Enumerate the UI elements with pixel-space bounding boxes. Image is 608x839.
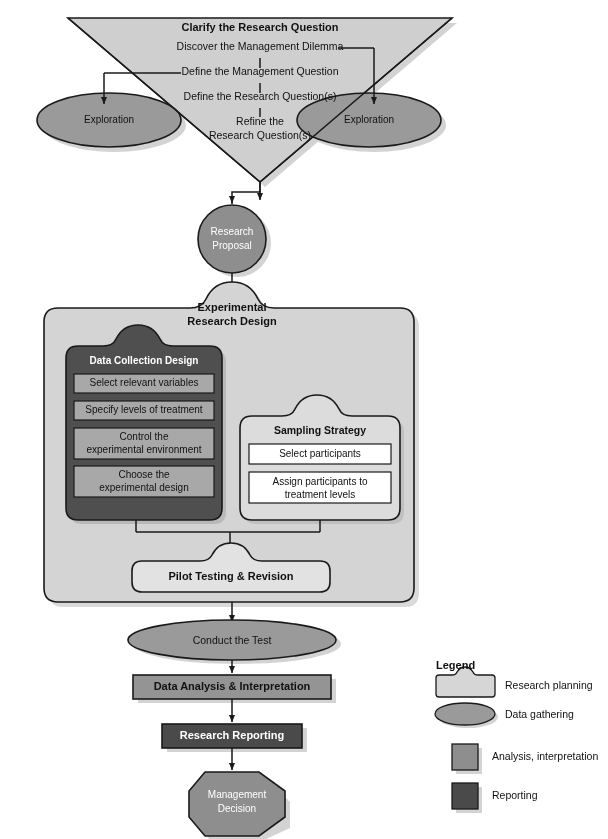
research-proposal-shape: [198, 205, 266, 273]
design-container-title-line1: Experimental: [157, 301, 307, 314]
legend-swatch-data-gathering: [435, 703, 495, 725]
legend-label-research-planning: Research planning: [505, 679, 608, 691]
dc-item-1: Select relevant variables: [74, 377, 214, 389]
sampling-item-1: Select participants: [249, 448, 391, 460]
sampling-item-2-line2: treatment levels: [249, 489, 391, 501]
legend-swatches: [435, 667, 498, 813]
dc-item-3-line2: experimental environment: [70, 444, 218, 456]
research-proposal-line1: Research: [182, 226, 282, 238]
funnel-heading: Clarify the Research Question: [140, 21, 380, 34]
exploration-left-label: Exploration: [59, 114, 159, 126]
data-collection-title: Data Collection Design: [68, 355, 220, 367]
dc-item-4-line1: Choose the: [74, 469, 214, 481]
conduct-test-label: Conduct the Test: [160, 634, 304, 646]
management-decision-line1: Management: [189, 789, 285, 801]
data-analysis-label: Data Analysis & Interpretation: [133, 680, 331, 693]
legend-title: Legend: [436, 659, 526, 672]
dc-item-2: Specify levels of treatment: [74, 404, 214, 416]
legend-label-data-gathering: Data gathering: [505, 708, 608, 720]
sampling-title: Sampling Strategy: [244, 424, 396, 436]
funnel-tip-arrow: [232, 182, 260, 203]
legend-label-analysis: Analysis, interpretation: [492, 750, 608, 762]
exploration-right-label: Exploration: [319, 114, 419, 126]
design-container-title-line2: Research Design: [157, 315, 307, 328]
research-reporting-label: Research Reporting: [162, 729, 302, 742]
flowchart-diagram: Clarify the Research Question Discover t…: [0, 0, 608, 839]
research-proposal-line2: Proposal: [182, 240, 282, 252]
funnel-step-2: Define the Management Question: [120, 65, 400, 77]
funnel-step-1: Discover the Management Dilemma: [120, 40, 400, 52]
legend-label-reporting: Reporting: [492, 789, 602, 801]
legend-swatch-reporting: [452, 783, 478, 809]
funnel-step-4-line2: Research Question(s): [150, 129, 370, 141]
funnel-step-3: Define the Research Question(s): [120, 90, 400, 102]
management-decision-line2: Decision: [189, 803, 285, 815]
dc-item-3-line1: Control the: [74, 431, 214, 443]
dc-item-4-line2: experimental design: [74, 482, 214, 494]
sampling-item-2-line1: Assign participants to: [249, 476, 391, 488]
pilot-testing-label: Pilot Testing & Revision: [142, 570, 320, 583]
legend-swatch-analysis: [452, 744, 478, 770]
